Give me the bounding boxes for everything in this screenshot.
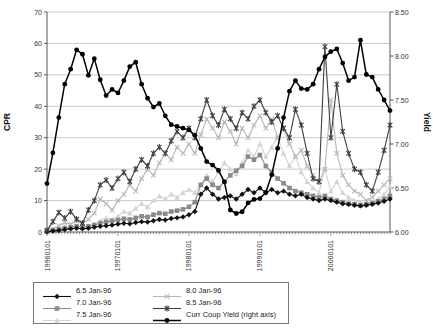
svg-text:30: 30 [34,134,42,141]
svg-text:20000101: 20000101 [327,240,334,271]
legend-label: 8.5 Jan-96 [186,299,221,307]
chart-plot-area: 0102030405060706.006.507.007.508.008.501… [0,0,433,330]
legend-label: 6.5 Jan-96 [76,287,111,295]
svg-text:8.50: 8.50 [395,9,409,16]
svg-text:0: 0 [38,229,42,236]
square-marker-icon [42,299,72,308]
diamond-marker-icon [42,287,72,296]
prepayment-speeds-chart: 0102030405060706.006.507.007.508.008.501… [0,0,433,330]
svg-text:19970101: 19970101 [114,240,121,271]
x-marker-icon [152,287,182,296]
asterisk-marker-icon [152,299,182,308]
svg-text:19960101: 19960101 [44,240,51,271]
legend-label: 8.0 Jan-96 [186,287,221,295]
series-7-5-jan-96 [44,135,393,234]
legend-item-7-0-jan-96: 7.0 Jan-96 [42,297,146,309]
series-8-5-jan-96 [45,43,393,233]
series-6-5-jan-96 [44,185,392,234]
legend-label: 7.5 Jan-96 [76,311,111,319]
legend-item-6-5-jan-96: 6.5 Jan-96 [42,285,146,297]
svg-text:8.00: 8.00 [395,53,409,60]
legend-item-7-5-jan-96: 7.5 Jan-96 [42,309,146,321]
svg-text:20: 20 [34,166,42,173]
triangle-marker-icon [42,311,72,320]
svg-text:70: 70 [34,9,42,16]
circle-marker-icon [152,311,182,320]
svg-text:19980101: 19980101 [185,240,192,271]
svg-text:7.50: 7.50 [395,97,409,104]
svg-text:Yield: Yield [422,112,432,132]
svg-text:6.00: 6.00 [395,229,409,236]
series-8-0-jan-96 [45,98,393,234]
chart-legend: 6.5 Jan-96 7.0 Jan-96 7.5 Jan-96 8.0 Jan… [33,282,289,324]
legend-item-8-5-jan-96: 8.5 Jan-96 [152,297,284,309]
svg-text:6.50: 6.50 [395,185,409,192]
svg-text:10: 10 [34,197,42,204]
svg-text:7.00: 7.00 [395,141,409,148]
svg-text:19990101: 19990101 [256,240,263,271]
legend-label: Curr Coup Yield (right axis) [186,311,276,319]
svg-text:40: 40 [34,103,42,110]
svg-text:50: 50 [34,71,42,78]
svg-text:CPR: CPR [2,113,12,131]
legend-label: 7.0 Jan-96 [76,299,111,307]
legend-item-8-0-jan-96: 8.0 Jan-96 [152,285,284,297]
legend-item-curr-coup-yield: Curr Coup Yield (right axis) [152,309,284,321]
svg-text:60: 60 [34,40,42,47]
